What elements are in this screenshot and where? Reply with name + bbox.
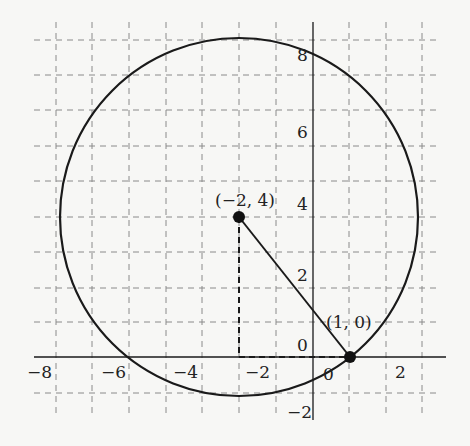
- y-tick-label: 8: [297, 45, 308, 65]
- x-tick-label: −2: [245, 362, 270, 382]
- x-tick-label: 0: [323, 364, 334, 384]
- radius-segment: [239, 217, 350, 357]
- point-on-circle: [344, 351, 356, 363]
- coordinate-plane: (−2, 4) (1, 0) −8 −6 −4 −2 0 2 8 6 4 2 0…: [0, 0, 470, 446]
- x-tick-label: −8: [27, 362, 52, 382]
- y-tick-label: 2: [297, 265, 308, 285]
- x-tick-label: −6: [101, 362, 126, 382]
- center-point: [233, 211, 245, 223]
- y-tick-labels: 8 6 4 2 0 −2: [287, 45, 312, 422]
- x-tick-label: 2: [395, 362, 406, 382]
- center-label: (−2, 4): [215, 190, 275, 210]
- y-tick-label: 0: [297, 335, 308, 355]
- y-tick-label: −2: [287, 402, 312, 422]
- x-tick-label: −4: [173, 362, 198, 382]
- y-tick-label: 4: [297, 194, 308, 214]
- point-label: (1, 0): [326, 312, 372, 332]
- y-tick-label: 6: [297, 122, 308, 142]
